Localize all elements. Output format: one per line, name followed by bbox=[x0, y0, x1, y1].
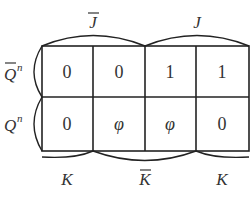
cell-r1-c2: φ bbox=[165, 114, 175, 134]
label-j: J bbox=[193, 13, 202, 32]
label-qn: Q n bbox=[4, 112, 23, 135]
cell-r0-c1: 0 bbox=[115, 62, 124, 82]
cell-r0-c0: 0 bbox=[63, 62, 72, 82]
bracket-k-bar bbox=[93, 151, 196, 161]
top-brackets bbox=[42, 36, 249, 47]
karnaugh-map: J J Q n Q n K K K 0 0 1 1 0 φ φ 0 bbox=[0, 0, 251, 211]
svg-text:n: n bbox=[17, 61, 23, 73]
svg-text:Q: Q bbox=[4, 65, 16, 84]
cell-r1-c3: 0 bbox=[218, 114, 227, 134]
bracket-k-right bbox=[196, 151, 249, 157]
label-k-right: K bbox=[215, 170, 229, 189]
label-qn-bar: Q n bbox=[4, 61, 23, 84]
label-j-bar: J bbox=[89, 13, 98, 32]
bracket-k-left bbox=[42, 151, 93, 157]
label-k-bar: K bbox=[138, 170, 152, 189]
label-k-left: K bbox=[60, 170, 74, 189]
bracket-qn-bar bbox=[34, 46, 42, 97]
cell-r1-c1: φ bbox=[114, 114, 124, 134]
svg-text:n: n bbox=[17, 112, 23, 124]
bottom-brackets bbox=[42, 151, 249, 161]
bracket-j-bar bbox=[42, 36, 145, 47]
left-brackets bbox=[34, 46, 42, 151]
cell-r0-c2: 1 bbox=[166, 62, 175, 82]
bracket-qn bbox=[34, 97, 42, 151]
cell-r0-c3: 1 bbox=[218, 62, 227, 82]
cell-r1-c0: 0 bbox=[63, 114, 72, 134]
svg-text:Q: Q bbox=[4, 116, 16, 135]
bracket-j bbox=[145, 36, 249, 47]
